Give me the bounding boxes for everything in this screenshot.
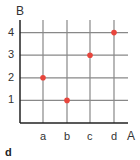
x-tick-label: a bbox=[40, 131, 46, 142]
y-tick-label: 3 bbox=[8, 49, 14, 60]
y-tick-label: 2 bbox=[8, 72, 14, 83]
x-tick-label: d bbox=[111, 131, 117, 142]
data-points bbox=[40, 30, 117, 103]
y-tick-label: 1 bbox=[8, 94, 14, 105]
grid-lines bbox=[20, 20, 128, 123]
figure-caption: d bbox=[5, 146, 12, 158]
data-point bbox=[40, 75, 46, 81]
x-tick-label: b bbox=[64, 131, 70, 142]
y-axis-label: B bbox=[16, 5, 24, 17]
x-axis-label: A bbox=[127, 130, 135, 142]
data-point bbox=[111, 30, 117, 36]
data-point bbox=[64, 98, 70, 104]
axes bbox=[20, 20, 128, 123]
y-tick-label: 4 bbox=[8, 27, 14, 38]
data-point bbox=[87, 52, 93, 58]
x-tick-label: c bbox=[87, 131, 93, 142]
